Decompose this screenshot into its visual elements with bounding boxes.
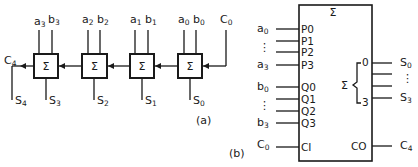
ripple-carry-adder: Σ a3 b3 S3 Σ a2 b2 S2 Σ a1 b1 S1 [4,13,233,127]
pin-q1: Q1 [301,93,316,105]
pin-q3: Q3 [301,117,316,129]
input-b3-label: b3 [48,13,60,27]
signal-a3-label: a3 [257,58,269,72]
sum-group-sigma: Σ [341,79,348,92]
signal-c0-label: C0 [257,138,270,152]
adder-stage-2: Σ a2 b2 S2 [82,13,109,108]
pin-co: CO [351,140,367,152]
output-s2-label: S2 [97,94,109,108]
input-a2-label: a2 [82,13,94,27]
ellipsis-s: ⋮ [402,72,413,85]
input-a1-label: a1 [130,13,142,27]
pin-q0: Q0 [301,81,316,93]
sigma-symbol: Σ [91,60,98,73]
signal-b3-label: b3 [257,116,269,130]
input-a0-label: a0 [178,13,190,27]
carry-in-c0: C0 [202,13,233,69]
pin-ci: CI [301,141,311,153]
signal-b0-label: b0 [257,80,269,94]
block-sigma-symbol: Σ [330,6,337,19]
pin-q2: Q2 [301,105,316,117]
input-a3-label: a3 [34,15,46,29]
sigma-symbol: Σ [43,60,50,73]
output-s4-label: S4 [15,94,27,108]
adder-stage-3: Σ a3 b3 S3 [34,13,61,108]
output-s0-label: S0 [400,56,412,70]
caption-b: (b) [229,147,245,160]
arrow-left-icon [20,63,26,69]
sum-bit-first: 0 [362,56,369,68]
signal-a0-label: a0 [257,22,269,36]
pin-p0: P0 [301,23,314,35]
arrow-left-icon [108,63,114,69]
pin-p3: P3 [301,59,314,71]
sum-bit-last: 3 [362,96,369,108]
sigma-symbol: Σ [139,60,146,73]
carry-in-label: C0 [220,13,233,27]
carry-out-label: C4 [4,54,17,68]
output-s0-label: S0 [193,94,205,108]
signal-c4-label: C4 [400,139,413,153]
arrow-left-icon [155,63,161,69]
ellipsis-p: ⋮ [259,41,270,54]
input-b0-label: b0 [193,13,205,27]
adder-stage-0: Σ a0 b0 S0 [178,13,205,108]
sigma-symbol: Σ [187,60,194,73]
input-b1-label: b1 [145,13,157,27]
output-s3-label: S3 [49,94,61,108]
adder-diagram: Σ a3 b3 S3 Σ a2 b2 S2 Σ a1 b1 S1 [0,0,418,167]
adder-block-symbol: Σ P0 P1 P2 P3 a0 ⋮ a3 Q0 Q1 Q2 Q3 b0 ⋮ b… [229,5,413,161]
output-s3-label: S3 [400,91,412,105]
adder-stage-1: Σ a1 b1 S1 [130,13,157,108]
ellipsis-q: ⋮ [259,99,270,112]
arrow-left-icon [59,63,65,69]
output-s1-label: S1 [145,94,157,108]
arrow-left-icon [203,63,209,69]
pin-p2: P2 [301,46,314,58]
input-b2-label: b2 [97,13,109,27]
caption-a: (a) [196,114,211,127]
